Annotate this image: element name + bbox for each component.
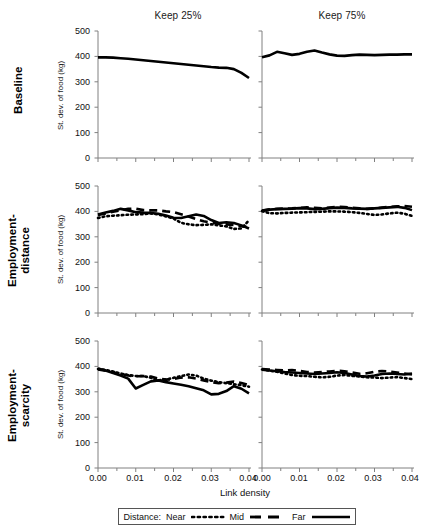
legend-swatch-mid-dashed <box>249 513 287 521</box>
series-mid <box>262 369 412 375</box>
series-far <box>262 207 412 211</box>
figure-panel-grid: Keep 25% Keep 75% Baseline Employment- d… <box>0 0 423 532</box>
panel-employment-distance-keep-25- <box>95 186 252 317</box>
ytick-400-row3: 400 <box>64 361 90 371</box>
series-near <box>98 369 249 387</box>
legend: Distance: Near Mid Far <box>118 508 356 525</box>
series-near <box>262 211 412 216</box>
xtick-000-right: 0.00 <box>247 473 277 483</box>
ytick-300-row3: 300 <box>64 387 90 397</box>
xtick-003-left: 0.03 <box>195 473 225 483</box>
ytick-100-row2: 100 <box>64 283 90 293</box>
ytick-200-row2: 200 <box>64 257 90 267</box>
column-title-keep75: Keep 75% <box>282 10 402 21</box>
xtick-000-left: 0.00 <box>83 473 113 483</box>
ytick-100-row1: 100 <box>64 128 90 138</box>
series-mid <box>262 206 412 211</box>
ytick-400-row2: 400 <box>64 206 90 216</box>
ytick-200-row3: 200 <box>64 412 90 422</box>
series-far <box>98 209 249 229</box>
series-far <box>98 57 249 78</box>
ytick-400-row1: 400 <box>64 51 90 61</box>
xtick-001-right: 0.01 <box>284 473 314 483</box>
series-near <box>262 369 412 379</box>
ytick-0-row2: 0 <box>64 308 90 318</box>
row-label-baseline: Baseline <box>12 50 25 130</box>
panel-employment-scarcity-keep-75- <box>259 341 415 472</box>
legend-label-mid: Mid <box>230 512 245 522</box>
panel-baseline-keep-75- <box>259 31 415 162</box>
ytick-500-row2: 500 <box>64 181 90 191</box>
xtick-004-right: 0.04 <box>395 473 423 483</box>
panel-employment-distance-keep-75- <box>259 186 415 317</box>
ytick-300-row1: 300 <box>64 77 90 87</box>
xtick-001-left: 0.01 <box>120 473 150 483</box>
xtick-002-right: 0.02 <box>321 473 351 483</box>
series-far <box>262 370 412 377</box>
legend-label-far: Far <box>292 512 306 522</box>
row-label-employment-distance: Employment- distance <box>6 211 31 291</box>
panel-baseline-keep-25- <box>95 31 252 162</box>
ytick-200-row1: 200 <box>64 102 90 112</box>
ytick-100-row3: 100 <box>64 438 90 448</box>
ytick-500-row3: 500 <box>64 336 90 346</box>
series-far <box>98 368 249 394</box>
legend-swatch-near-dotted <box>191 513 225 521</box>
series-mid <box>98 209 249 228</box>
ytick-500-row1: 500 <box>64 26 90 36</box>
series-far <box>262 51 412 58</box>
xtick-003-right: 0.03 <box>358 473 388 483</box>
series-mid <box>98 369 249 385</box>
legend-title: Distance: <box>123 512 161 522</box>
column-title-keep25: Keep 25% <box>118 10 238 21</box>
row-label-employment-scarcity: Employment- scarcity <box>6 366 31 446</box>
x-axis-label: Link density <box>175 487 315 498</box>
panel-employment-scarcity-keep-25- <box>95 341 252 472</box>
legend-label-near: Near <box>166 512 186 522</box>
legend-swatch-far-solid <box>311 513 351 521</box>
xtick-002-left: 0.02 <box>158 473 188 483</box>
ytick-300-row2: 300 <box>64 232 90 242</box>
series-near <box>98 213 249 229</box>
ytick-0-row3: 0 <box>64 463 90 473</box>
ytick-0-row1: 0 <box>64 153 90 163</box>
